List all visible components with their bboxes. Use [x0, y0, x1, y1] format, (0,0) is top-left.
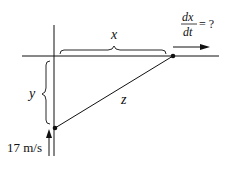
rate-equals-question: = ?	[199, 17, 214, 32]
hypotenuse-z-line	[55, 56, 173, 128]
rate-numerator: dx	[182, 10, 193, 25]
point-right	[171, 54, 176, 59]
x-label: x	[111, 27, 117, 43]
y-brace	[42, 61, 50, 124]
x-brace	[60, 46, 166, 54]
rate-denominator: dt	[183, 25, 192, 40]
arrow-up-icon	[46, 129, 52, 138]
y-label: y	[29, 86, 35, 102]
z-label: z	[121, 92, 126, 108]
arrow-right-icon	[200, 44, 210, 50]
point-bottom	[53, 126, 58, 131]
speed-label: 17 m/s	[7, 140, 42, 156]
